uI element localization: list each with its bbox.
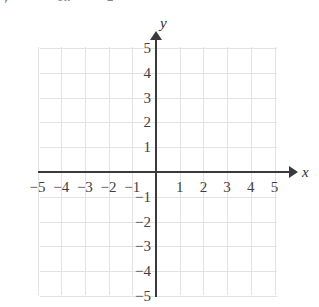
gridline-horizontal xyxy=(40,197,277,198)
x-tick-label: −3 xyxy=(77,180,93,195)
y-axis-line xyxy=(155,38,157,297)
x-tick-label: 1 xyxy=(176,180,184,195)
gridline-horizontal xyxy=(40,122,277,123)
gridline-horizontal xyxy=(40,73,277,74)
gridline-horizontal xyxy=(40,246,277,247)
y-tick-label: 1 xyxy=(126,140,151,155)
gridline-horizontal xyxy=(40,147,277,148)
y-tick-label: −5 xyxy=(126,289,151,304)
x-tick-label: −4 xyxy=(53,180,69,195)
figure-canvas: y en 2 −5−4−3−2−11234554321−1−2−3−4−5 x … xyxy=(0,0,319,307)
y-tick-label: −4 xyxy=(126,264,151,279)
gridline-horizontal xyxy=(40,296,277,297)
y-tick-label: 5 xyxy=(126,41,151,56)
y-axis-label: y xyxy=(160,16,167,31)
y-axis-arrow-icon xyxy=(150,31,162,40)
x-tick-label: 2 xyxy=(200,180,208,195)
y-tick-label: −1 xyxy=(126,189,151,204)
gridline-horizontal xyxy=(40,48,277,49)
coordinate-plane: −5−4−3−2−11234554321−1−2−3−4−5 x y xyxy=(0,0,319,307)
y-tick-label: 4 xyxy=(126,65,151,80)
x-tick-label: −5 xyxy=(30,180,46,195)
x-axis-line xyxy=(38,171,295,173)
y-tick-label: 3 xyxy=(126,90,151,105)
x-axis-arrow-icon xyxy=(289,166,298,178)
y-tick-label: −2 xyxy=(126,214,151,229)
gridline-horizontal xyxy=(40,271,277,272)
y-tick-label: −3 xyxy=(126,239,151,254)
x-tick-label: −2 xyxy=(101,180,117,195)
gridline-horizontal xyxy=(40,98,277,99)
x-tick-label: 4 xyxy=(247,180,255,195)
gridline-horizontal xyxy=(40,222,277,223)
x-tick-label: 5 xyxy=(271,180,279,195)
x-tick-label: 3 xyxy=(223,180,231,195)
y-tick-label: 2 xyxy=(126,115,151,130)
x-axis-label: x xyxy=(302,165,309,180)
